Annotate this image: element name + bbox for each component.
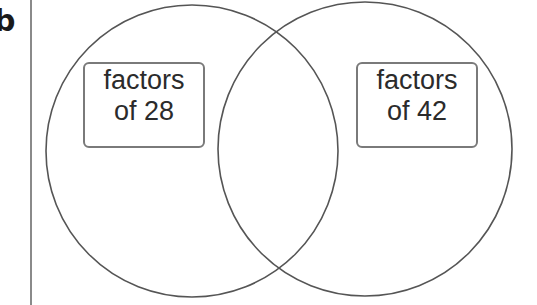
set-label-left: factors of 28 <box>83 62 205 148</box>
venn-diagram <box>0 0 537 305</box>
circle-factors-of-28 <box>46 5 338 297</box>
set-label-left-line1: factors <box>85 65 203 96</box>
circle-factors-of-42 <box>218 2 512 296</box>
set-label-right: factors of 42 <box>356 62 478 148</box>
set-label-right-line1: factors <box>358 65 476 96</box>
set-label-left-line2: of 28 <box>85 96 203 127</box>
set-label-right-line2: of 42 <box>358 96 476 127</box>
